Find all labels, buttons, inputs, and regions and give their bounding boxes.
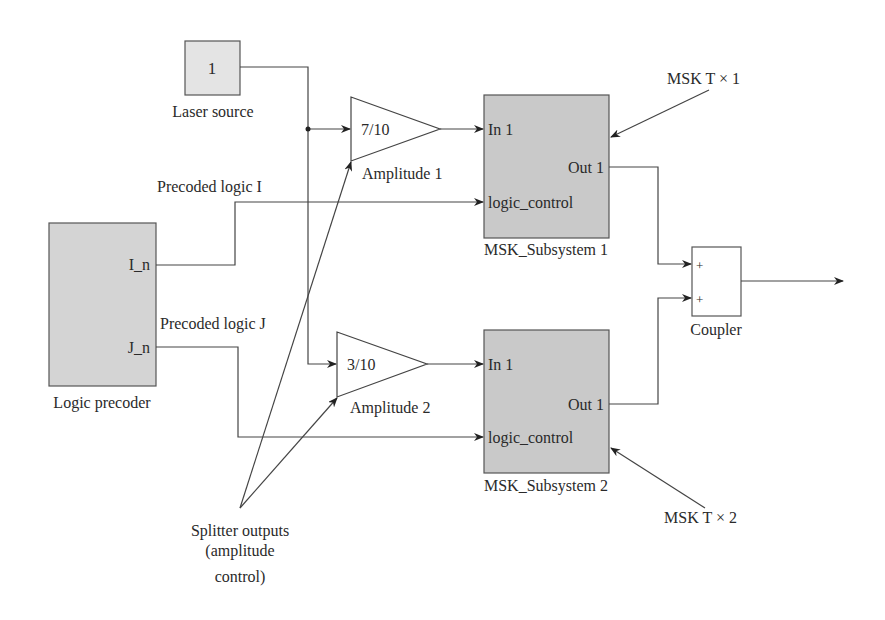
- msk-t1-label: MSK T × 1: [667, 70, 740, 87]
- amplitude-1-label: Amplitude 1: [362, 165, 442, 183]
- amplitude-2-gain[interactable]: 3/10: [337, 332, 427, 397]
- msk-t2-arrow: [611, 448, 705, 508]
- logic-precoder-block[interactable]: I_n J_n: [49, 223, 156, 386]
- subsystem-1-in-port: In 1: [488, 121, 513, 138]
- laser-source-value: 1: [208, 59, 217, 78]
- laser-source-label: Laser source: [172, 103, 253, 120]
- port-i-n: I_n: [129, 256, 150, 273]
- subsystem-2-label: MSK_Subsystem 2: [484, 477, 608, 495]
- splitter-arrow-2: [240, 398, 337, 508]
- msk-t1-arrow: [611, 90, 709, 137]
- precoded-logic-i-label: Precoded logic I: [157, 178, 262, 196]
- subsystem-1-out-port: Out 1: [568, 159, 604, 176]
- port-j-n: J_n: [128, 339, 150, 356]
- subsystem-1-control-port: logic_control: [488, 194, 574, 212]
- coupler-plus-1: +: [696, 258, 703, 273]
- amplitude-2-value: 3/10: [347, 356, 375, 373]
- out2-to-coupler: [609, 298, 691, 404]
- subsystem-2-out-port: Out 1: [568, 396, 604, 413]
- splitter-label-line3: control): [215, 568, 266, 586]
- msk-subsystem-2-block[interactable]: In 1 Out 1 logic_control: [484, 330, 609, 473]
- block-diagram: 1 Laser source I_n J_n Logic precoder Pr…: [0, 0, 885, 620]
- splitter-label-line2: (amplitude: [205, 542, 274, 560]
- logic-precoder-label: Logic precoder: [53, 394, 151, 412]
- precoded-logic-j-label: Precoded logic J: [160, 315, 266, 333]
- coupler-label: Coupler: [690, 321, 742, 339]
- msk-t2-label: MSK T × 2: [664, 509, 737, 526]
- coupler-block[interactable]: + +: [692, 247, 741, 316]
- amplitude-2-label: Amplitude 2: [350, 399, 430, 417]
- out1-to-coupler: [609, 167, 691, 264]
- subsystem-2-control-port: logic_control: [488, 429, 574, 447]
- splitter-arrow-1: [240, 162, 351, 508]
- msk-subsystem-1-block[interactable]: In 1 Out 1 logic_control: [484, 95, 609, 238]
- laser-source-block[interactable]: 1: [185, 41, 240, 95]
- amplitude-1-gain[interactable]: 7/10: [351, 97, 440, 161]
- junction-dot: [306, 127, 311, 132]
- precoded-i-wire: [156, 202, 483, 265]
- subsystem-2-in-port: In 1: [488, 356, 513, 373]
- coupler-plus-2: +: [696, 292, 703, 307]
- precoded-j-wire: [156, 347, 483, 437]
- subsystem-1-label: MSK_Subsystem 1: [484, 241, 608, 259]
- amplitude-1-value: 7/10: [361, 121, 389, 138]
- splitter-label-line1: Splitter outputs: [191, 522, 289, 540]
